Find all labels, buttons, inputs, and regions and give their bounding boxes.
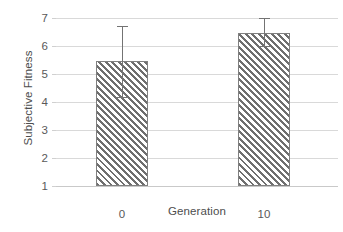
y-tick-label-2: 2 [26,153,48,163]
y-tick-label-3: 3 [26,125,48,135]
y-tick-mark-5 [52,74,56,75]
y-tick-mark-6 [52,46,56,47]
bar-generation-10 [238,33,290,186]
y-tick-mark-2 [52,158,56,159]
y-tick-label-4: 4 [26,97,48,107]
gridline-7 [56,18,338,19]
plot-area: 0 10 [56,14,338,190]
y-tick-label-5: 5 [26,69,48,79]
x-axis-title: Generation [56,205,338,217]
y-tick-mark-1 [52,186,56,187]
error-bar-cap-upper-generation-10 [259,18,270,19]
error-bar-cap-lower-generation-10 [259,46,270,47]
error-bar-line-generation-0 [122,26,123,97]
y-tick-label-7: 7 [26,13,48,23]
bar-chart: Subjective Fitness 7 6 5 4 3 2 1 [0,0,343,232]
gridline-baseline-1 [56,186,338,187]
y-tick-mark-4 [52,102,56,103]
y-tick-mark-3 [52,130,56,131]
error-bar-cap-lower-generation-0 [117,97,128,98]
gridline-6 [56,46,338,47]
error-bar-line-generation-10 [264,18,265,47]
y-tick-label-1: 1 [26,181,48,191]
y-tick-mark-7 [52,18,56,19]
y-tick-label-6: 6 [26,41,48,51]
y-axis-tick-labels: 7 6 5 4 3 2 1 [24,0,48,232]
error-bar-cap-upper-generation-0 [117,26,128,27]
